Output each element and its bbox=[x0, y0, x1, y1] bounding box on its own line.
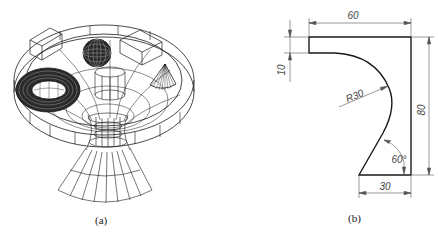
dim-angle: 60° bbox=[391, 154, 406, 165]
dim-width-top: 60 bbox=[347, 10, 359, 21]
caption-b: (b) bbox=[348, 212, 361, 224]
dim-height: 80 bbox=[416, 104, 427, 116]
figure-canvas: 60 10 80 30 R30 60° (a) (b) bbox=[0, 0, 438, 239]
wireframe-torus bbox=[16, 68, 80, 112]
wireframe-small-cone bbox=[150, 64, 176, 90]
wireframe-sphere bbox=[83, 39, 111, 67]
dim-radius: R30 bbox=[344, 87, 366, 104]
dim-width-bottom: 30 bbox=[379, 181, 391, 192]
dim-thickness-top: 10 bbox=[276, 64, 287, 76]
profile-drawing: 60 10 80 30 R30 60° bbox=[276, 10, 434, 198]
caption-a: (a) bbox=[95, 214, 107, 226]
